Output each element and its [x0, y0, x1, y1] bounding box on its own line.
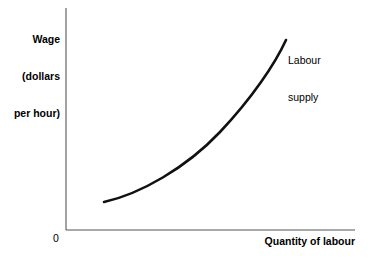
chart-figure: Wage (dollars per hour) Quantity of labo… [0, 0, 379, 269]
labour-supply-curve-label: Labour supply [288, 29, 321, 128]
y-axis-label-line-2: (dollars [0, 70, 60, 82]
curve-label-line-1: Labour [288, 54, 321, 66]
y-axis-label-line-3: per hour) [0, 107, 60, 119]
curve-label-line-2: supply [288, 91, 321, 103]
origin-label: 0 [53, 232, 59, 244]
x-axis-label: Quantity of labour [195, 235, 355, 247]
y-axis-label-line-1: Wage [0, 33, 60, 45]
labour-supply-curve [104, 40, 286, 202]
y-axis-label: Wage (dollars per hour) [0, 8, 60, 144]
